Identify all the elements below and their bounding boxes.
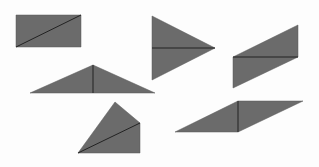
triangle-pointing-right (152, 16, 215, 80)
shapes-canvas (0, 0, 319, 167)
shape-body (175, 101, 303, 132)
rectangle-split-diagonal (16, 15, 81, 47)
quadrilateral-diagonal-split (78, 102, 140, 153)
parallelogram-horizontal-split (233, 25, 298, 88)
wide-triangle-vertical-split (30, 65, 155, 93)
parallelogram-vertical-split (175, 101, 303, 132)
